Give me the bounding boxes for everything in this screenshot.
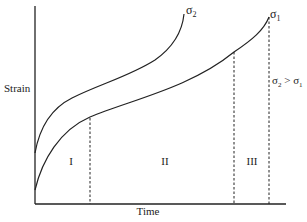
curve-label-sigma2: σ2 bbox=[186, 3, 196, 19]
y-axis-label: Strain bbox=[4, 82, 31, 94]
stress-comparison: σ2 > σ1 bbox=[272, 74, 303, 89]
stage-label-secondary: II bbox=[161, 155, 169, 167]
x-axis-label: Time bbox=[137, 205, 160, 217]
curve-label-sigma1: σ1 bbox=[270, 7, 280, 23]
curve-sigma2 bbox=[35, 14, 184, 153]
creep-diagram: Strain Time σ2 σ1 I II III σ2 > σ1 bbox=[0, 0, 307, 222]
stage-label-primary: I bbox=[69, 155, 73, 167]
stage-label-tertiary: III bbox=[247, 155, 258, 167]
